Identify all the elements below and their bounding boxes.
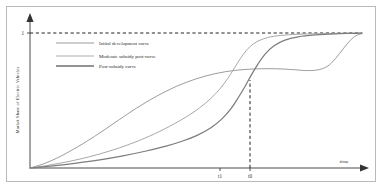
x-tick-label-t1: t1	[218, 173, 222, 179]
chart-svg: 1 t1 t0 time Market Share of Electric Ve…	[0, 0, 382, 188]
y-axis-title: Market Share of Electric Vehicles	[15, 67, 20, 134]
x-axis-arrow-icon	[360, 164, 369, 171]
curve-moderate-subsidy-post	[30, 33, 362, 168]
legend-label-0: Initial development curve	[99, 41, 149, 46]
legend: Initial development curve Moderate subsi…	[56, 41, 156, 69]
figure-canvas: 1 t1 t0 time Market Share of Electric Ve…	[0, 0, 382, 188]
curve-post-subsidy	[30, 33, 362, 168]
x-tick-label-t0: t0	[248, 173, 252, 179]
y-tick-label-1: 1	[21, 30, 24, 36]
curve-group	[30, 33, 362, 168]
y-axis-arrow-icon	[26, 13, 33, 22]
legend-label-2: Post-subsidy curve	[99, 64, 136, 69]
curve-initial-development	[30, 34, 362, 168]
x-axis-title: time	[340, 159, 349, 164]
legend-label-1: Moderate subsidy post-curve	[99, 54, 156, 59]
